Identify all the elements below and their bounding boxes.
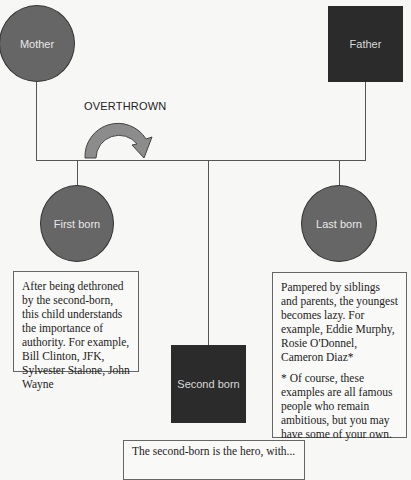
last-born-node: Last born [301,185,377,262]
mother-connector [36,82,37,160]
mother-label: Mother [20,38,54,50]
father-connector [365,82,366,160]
father-label: Father [350,38,382,50]
first-born-connector [77,160,78,186]
mother-node: Mother [0,5,75,82]
second-born-note: The second-born is the hero, with... [123,440,305,480]
first-born-note-text: After being dethroned by the second-born… [22,279,130,391]
second-born-note-text: The second-born is the hero, with... [132,444,296,458]
second-born-label: Second born [177,378,239,390]
last-born-connector [339,160,340,186]
last-born-note: Pampered by siblings and parents, the yo… [272,272,407,438]
last-born-label: Last born [316,218,362,230]
curved-arrow-icon [80,117,170,162]
second-born-connector [208,160,209,346]
overthrown-label: OVERTHROWN [84,100,166,112]
last-born-footnote: * Of course, these examples are all famo… [281,371,398,441]
first-born-label: First born [54,218,100,230]
first-born-node: First born [40,185,114,262]
first-born-note: After being dethroned by the second-born… [13,271,139,372]
last-born-note-text: Pampered by siblings and parents, the yo… [281,280,398,364]
second-born-node: Second born [171,345,246,423]
father-node: Father [328,6,403,82]
